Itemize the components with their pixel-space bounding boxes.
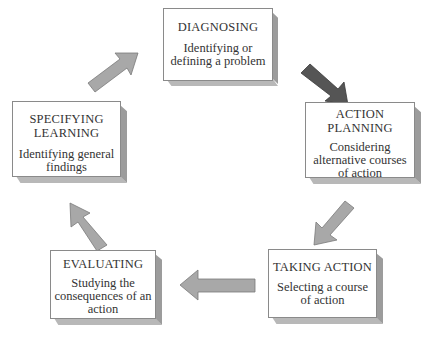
- node-title: ACTION PLANNING: [306, 107, 414, 135]
- box-depth-right: [155, 254, 162, 325]
- node-title: EVALUATING: [51, 257, 155, 271]
- node-diagnosing: DIAGNOSING Identifying or defining a pro…: [163, 8, 273, 81]
- node-description: Studying the consequences of an action: [51, 277, 155, 316]
- node-description: Identifying or defining a problem: [164, 42, 272, 68]
- node-title: TAKING ACTION: [269, 260, 376, 274]
- node-description: Considering alternative courses of actio…: [306, 141, 414, 180]
- box-depth-right: [376, 253, 383, 324]
- box-depth-bottom: [272, 317, 383, 324]
- node-description: Identifying general findings: [13, 148, 120, 174]
- arrow-action-planning-to-taking-action: [314, 201, 354, 245]
- node-title: DIAGNOSING: [164, 20, 272, 34]
- arrow-evaluating-to-specifying-learning: [70, 203, 107, 251]
- box-depth-right: [120, 105, 127, 183]
- node-evaluating: EVALUATING Studying the consequences of …: [50, 250, 156, 319]
- node-taking-action: TAKING ACTION Selecting a course of acti…: [268, 249, 377, 318]
- box-depth-right: [414, 106, 421, 184]
- node-description: Selecting a course of action: [269, 281, 376, 307]
- arrow-diagnosing-to-action-planning: [301, 64, 348, 105]
- box-depth-bottom: [54, 318, 162, 325]
- box-depth-bottom: [16, 176, 127, 183]
- arrow-specifying-learning-to-diagnosing: [88, 53, 138, 92]
- node-title: SPECIFYING LEARNING: [13, 112, 120, 140]
- arrow-taking-action-to-evaluating: [180, 270, 255, 300]
- node-action-planning: ACTION PLANNING Considering alternative …: [305, 102, 415, 178]
- node-specifying-learning: SPECIFYING LEARNING Identifying general …: [12, 101, 121, 177]
